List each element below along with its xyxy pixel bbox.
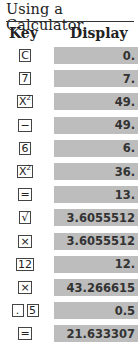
key-sequence: X2	[0, 163, 50, 180]
calculator-key: X2	[17, 95, 33, 108]
calculator-key: ×	[18, 281, 31, 294]
key-sequence: ×	[0, 233, 50, 250]
table-row: ×3.6055512	[0, 233, 140, 250]
table-row: C0.	[0, 47, 140, 64]
display-value: 43.266615	[54, 279, 138, 296]
table-row: −49.	[0, 117, 140, 134]
key-sequence: =	[0, 186, 50, 203]
display-value: 6.	[54, 140, 138, 157]
display-value: 12.	[54, 256, 138, 273]
calculator-key: =	[18, 327, 31, 340]
table-row: =21.633307	[0, 325, 140, 342]
display-value: 0.	[54, 47, 138, 64]
calculator-key: −	[18, 119, 31, 132]
table-row: X249.	[0, 93, 140, 110]
display-value: 3.6055512	[54, 209, 138, 226]
key-sequence: =	[0, 325, 50, 342]
key-sequence: 12	[0, 256, 50, 273]
table-row: √3.6055512	[0, 209, 140, 226]
calculator-key: X2	[17, 165, 33, 178]
title-rule	[6, 21, 134, 22]
table-row: .50.5	[0, 302, 140, 319]
calculator-key: C	[19, 49, 31, 62]
key-sequence: −	[0, 117, 50, 134]
display-value: 21.633307	[54, 325, 138, 342]
calculator-key: 6	[19, 142, 31, 155]
key-column-header: Key	[9, 25, 38, 41]
calculator-key: ×	[18, 235, 31, 248]
calculator-key: 7	[19, 72, 31, 85]
table-row: X236.	[0, 163, 140, 180]
display-value: 13.	[54, 186, 138, 203]
calculator-key: .	[12, 304, 24, 317]
key-sequence: X2	[0, 93, 50, 110]
key-sequence: ×	[0, 279, 50, 296]
table-row: ×43.266615	[0, 279, 140, 296]
display-value: 49.	[54, 93, 138, 110]
table-row: 66.	[0, 140, 140, 157]
calculator-key: 12	[16, 258, 34, 271]
table-row: 1212.	[0, 256, 140, 273]
key-sequence: C	[0, 47, 50, 64]
calculator-key: =	[18, 188, 31, 201]
key-sequence: 7	[0, 70, 50, 87]
key-sequence: .5	[0, 302, 50, 319]
display-value: 36.	[54, 163, 138, 180]
display-value: 7.	[54, 70, 138, 87]
table-row: =13.	[0, 186, 140, 203]
key-sequence: 6	[0, 140, 50, 157]
key-sequence: √	[0, 209, 50, 226]
display-value: 0.5	[54, 302, 138, 319]
calculator-key: √	[19, 211, 31, 224]
display-column-header: Display	[70, 25, 128, 41]
display-value: 3.6055512	[54, 233, 138, 250]
calculator-key: 5	[27, 304, 39, 317]
display-value: 49.	[54, 117, 138, 134]
table-row: 77.	[0, 70, 140, 87]
